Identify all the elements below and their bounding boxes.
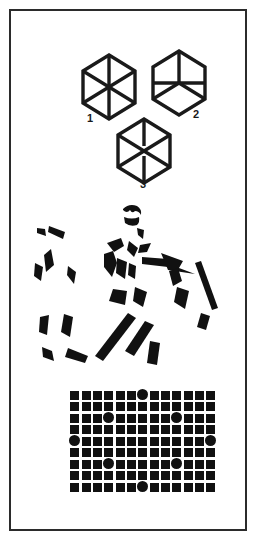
grid-cell-square [195,459,204,469]
grid-cell-square [70,448,80,457]
grid-cell-square [127,459,136,469]
square-icon [184,471,193,480]
square-icon [138,414,147,423]
square-icon [184,414,193,423]
grid-cell-square [184,390,193,400]
square-icon [116,448,125,457]
grid-cell-square [104,402,114,411]
square-icon [82,402,91,411]
square-icon [150,471,159,480]
square-icon [184,460,193,469]
square-icon [206,460,215,469]
square-icon [161,414,170,423]
grid-cell-square [184,436,193,446]
square-icon [127,460,136,469]
grid-cell-circle [70,436,80,446]
square-icon [172,483,181,492]
hexagon-1-label: 1 [87,113,93,124]
square-icon [104,391,113,400]
panel-border-frame: 1 2 [9,9,247,531]
square-icon [93,483,102,492]
square-icon [127,414,136,423]
square-icon [172,402,181,411]
grid-cell-square [138,425,148,434]
grid-cell-square [70,459,80,469]
grid-cell-square [116,413,125,423]
grid-cell-square [150,402,159,411]
grid-cell-square [206,459,216,469]
square-icon [184,437,193,446]
square-icon [127,425,136,434]
grid-cell-square [82,471,91,480]
square-icon [70,448,79,457]
grid-cell-square [195,390,204,400]
square-icon [206,402,215,411]
square-icon [195,471,204,480]
square-icon [138,471,147,480]
grid-cell-square [127,390,136,400]
grid-cell-square [138,471,148,480]
square-icon [195,425,204,434]
square-icon [150,483,159,492]
square-icon [93,437,102,446]
grid-cell-square [195,471,204,480]
square-icon [70,402,79,411]
grid-cell-square [82,402,91,411]
grid-cell-square [150,482,159,492]
square-icon [184,391,193,400]
square-icon [127,391,136,400]
square-icon [161,425,170,434]
grid-cell-circle [206,436,216,446]
square-icon [138,460,147,469]
square-icon [127,402,136,411]
grid-row [70,413,216,423]
circle-icon [103,458,114,469]
grid-cell-square [127,448,136,457]
circle-icon [69,435,80,446]
grid-cell-square [104,436,114,446]
grid-cell-square [93,425,102,434]
grid-cell-square [116,459,125,469]
circle-icon [171,458,182,469]
square-icon [150,460,159,469]
square-icon [195,402,204,411]
grid-cell-square [93,390,102,400]
square-icon [93,402,102,411]
square-icon [206,391,215,400]
square-icon [104,471,113,480]
circle-icon [171,412,182,423]
square-icon [116,437,125,446]
square-icon [172,471,181,480]
square-icon [172,448,181,457]
square-icon [116,402,125,411]
grid-cell-square [70,425,80,434]
square-icon [104,437,113,446]
grid-cell-square [206,425,216,434]
square-icon [116,460,125,469]
square-icon [195,448,204,457]
grid-cell-square [93,436,102,446]
grid-row [70,482,216,492]
square-icon [116,483,125,492]
square-icon [161,402,170,411]
grid-cell-circle [172,459,182,469]
square-icon [150,437,159,446]
square-icon [127,448,136,457]
grid-cell-square [172,448,182,457]
grid-cell-square [70,402,80,411]
grid-cell-square [184,425,193,434]
grid-cell-square [184,459,193,469]
square-icon [172,437,181,446]
grid-cell-square [127,482,136,492]
grid-cell-square [172,436,182,446]
square-icon [93,391,102,400]
grid-cell-square [172,402,182,411]
square-icon [82,391,91,400]
square-icon [195,414,204,423]
grid-cell-square [104,482,114,492]
grid-cell-square [150,471,159,480]
grid-cell-square [161,390,170,400]
grid-cell-square [172,390,182,400]
hexagon-2-label: 2 [193,109,199,120]
grid-cell-square [161,425,170,434]
